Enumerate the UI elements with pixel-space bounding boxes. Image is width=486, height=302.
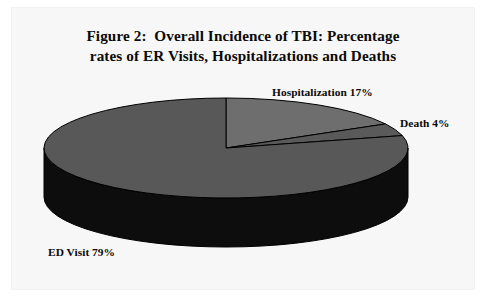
pie-top-surfaces (44, 98, 408, 198)
pie-label-death: Death 4% (400, 117, 449, 130)
pie-label-ed-visit: ED Visit 79% (48, 246, 115, 259)
pie-chart: Hospitalization 17% Death 4% ED Visit 79… (0, 0, 486, 302)
pie-label-hospitalization: Hospitalization 17% (272, 86, 373, 99)
figure-root: Figure 2: Overall Incidence of TBI: Perc… (0, 0, 486, 302)
